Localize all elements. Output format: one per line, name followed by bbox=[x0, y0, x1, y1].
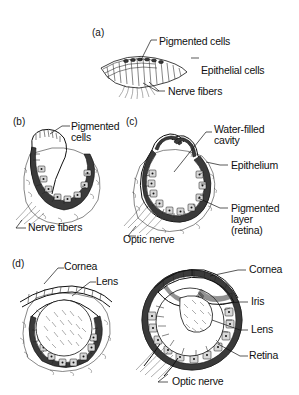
label-epithelial-cells-a: Epithelial cells bbox=[201, 65, 264, 77]
label-cornea-d: Cornea bbox=[64, 261, 97, 273]
label-retina-e: Retina bbox=[249, 350, 278, 362]
label-optic-nerve-c: Optic nerve bbox=[123, 234, 175, 246]
panel-e-leaders bbox=[134, 258, 259, 388]
label-optic-nerve-e: Optic nerve bbox=[172, 376, 224, 388]
label-nerve-fibers-b: Nerve fibers bbox=[28, 222, 82, 234]
label-pigmented-cells-a: Pigmented cells bbox=[159, 36, 230, 48]
label-lens-d: Lens bbox=[96, 276, 118, 288]
label-cornea-e: Cornea bbox=[249, 264, 282, 276]
figure-canvas: (a) bbox=[0, 0, 299, 395]
label-iris-e: Iris bbox=[251, 296, 264, 308]
label-water-filled-cavity-c-line2: cavity bbox=[214, 135, 240, 147]
label-pigmented-layer-c-line3: (retina) bbox=[231, 225, 263, 237]
label-nerve-fibers-a: Nerve fibers bbox=[168, 86, 222, 98]
panel-b-leaders bbox=[12, 124, 122, 234]
label-epithelium-c: Epithelium bbox=[231, 160, 278, 172]
label-pigmented-cells-b-line2: cells bbox=[71, 132, 91, 144]
label-lens-e: Lens bbox=[251, 324, 273, 336]
